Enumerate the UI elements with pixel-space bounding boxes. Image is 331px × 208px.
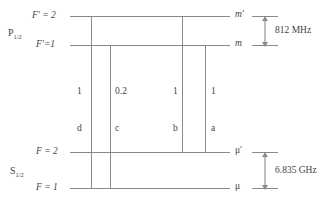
transition-strength-b: 1 — [173, 87, 178, 97]
term-symbol-P-subscript: 1/2 — [14, 33, 22, 40]
level-line-F2 — [70, 152, 230, 153]
term-symbol-S-subscript: 1/2 — [16, 171, 24, 178]
sublevel-label-m-prime: m′ — [235, 10, 244, 20]
transition-line-b — [182, 16, 183, 152]
sublevel-label-m: m — [235, 39, 242, 49]
sublevel-label-mu-prime: μ′ — [235, 146, 242, 156]
level-label-F1: F = 1 — [36, 183, 58, 193]
level-label-Fp2: F′ = 2 — [32, 11, 56, 21]
energy-level-diagram: F′ = 2 F′=1 F = 2 F = 1 P1/2 S1/2 m′ m μ… — [0, 0, 331, 208]
transition-strength-c: 0.2 — [115, 87, 127, 97]
term-symbol-P: P1/2 — [8, 28, 22, 40]
term-symbol-S: S1/2 — [10, 166, 24, 178]
transition-line-c — [110, 45, 111, 188]
transition-label-c: c — [115, 124, 119, 134]
sublevel-label-mu: μ — [235, 182, 240, 192]
transition-strength-d: 1 — [77, 87, 82, 97]
level-label-F2: F = 2 — [36, 147, 58, 157]
transition-line-d — [91, 16, 92, 188]
transition-label-a: a — [211, 124, 215, 134]
splitting-value-lower: 6.835 GHz — [275, 166, 317, 176]
level-line-Fp1 — [70, 45, 230, 46]
transition-strength-a: 1 — [211, 87, 216, 97]
level-line-Fp2 — [70, 16, 230, 17]
transition-label-b: b — [173, 124, 178, 134]
double-arrow-icon-lower — [258, 152, 272, 190]
level-line-F1 — [70, 188, 230, 189]
transition-label-d: d — [77, 124, 82, 134]
transition-line-a — [205, 45, 206, 152]
level-label-Fp1: F′=1 — [36, 40, 55, 50]
splitting-value-upper: 812 MHz — [275, 26, 311, 36]
double-arrow-icon-upper — [258, 16, 272, 47]
